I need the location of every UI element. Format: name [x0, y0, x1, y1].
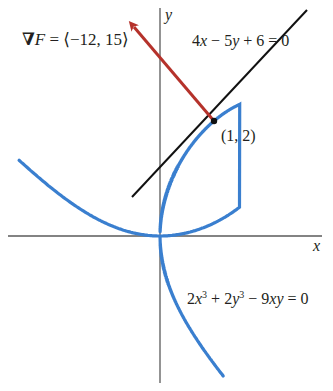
point-marker — [211, 118, 217, 124]
gradient-function-name: F — [35, 30, 45, 49]
gradient-vector-value: = ⟨−12, 15⟩ — [45, 30, 128, 49]
y-axis-label: y — [165, 7, 172, 23]
coef: − 5 — [207, 32, 232, 49]
coef: + 2 — [207, 290, 232, 307]
const: = 0 — [283, 290, 308, 307]
folium-curve — [19, 104, 240, 376]
var-xy: xy — [269, 290, 283, 307]
curve-equation: 2x3 + 2y3 − 9xy = 0 — [187, 290, 309, 307]
point-label: (1, 2) — [221, 128, 256, 144]
gradient-label: ∇F = ⟨−12, 15⟩ — [22, 31, 129, 48]
const: + 6 = 0 — [239, 32, 289, 49]
x-axis-label: x — [313, 238, 320, 254]
coef: − 9 — [244, 290, 269, 307]
tangent-equation: 4x − 5y + 6 = 0 — [192, 33, 289, 49]
diagram-canvas — [0, 0, 333, 391]
coef: 2 — [187, 290, 195, 307]
coef: 4 — [192, 32, 200, 49]
nabla-symbol: ∇ — [22, 30, 35, 49]
